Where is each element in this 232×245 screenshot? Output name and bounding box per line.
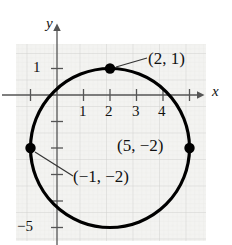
- point-neg1-neg2[interactable]: [25, 143, 35, 153]
- point-label-2-1: (2, 1): [148, 50, 185, 67]
- y-tick-label-minus5: −5: [17, 219, 33, 234]
- x-tick-label-3: 3: [132, 104, 140, 119]
- coordinate-plane-figure: y x 1 −5 1 2 3 4 (2, 1) (−1, −2) (5, −2): [0, 0, 232, 245]
- x-tick-label-1: 1: [79, 104, 87, 119]
- x-tick-label-4: 4: [158, 104, 166, 119]
- y-axis-label: y: [46, 16, 53, 31]
- point-2-1[interactable]: [105, 63, 115, 73]
- point-5-neg2[interactable]: [184, 143, 194, 153]
- point-label-5-neg2: (5, −2): [117, 137, 163, 154]
- circle-graph-svg: [0, 0, 232, 245]
- point-label-neg1-neg2: (−1, −2): [73, 168, 129, 185]
- x-tick-label-2: 2: [105, 104, 113, 119]
- y-tick-label-1: 1: [33, 60, 41, 75]
- x-axis-label: x: [212, 84, 219, 99]
